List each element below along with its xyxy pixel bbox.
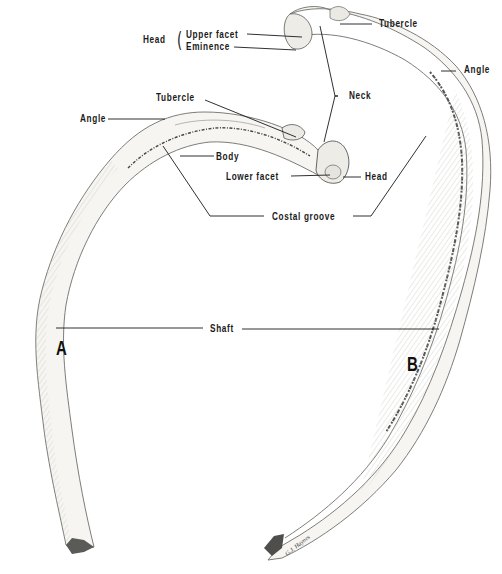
label-tubercle-a: Tubercle <box>156 92 195 103</box>
label-lower-facet: Lower facet <box>226 171 279 182</box>
brace-head: ( <box>177 29 182 51</box>
letter-b: B <box>407 354 418 374</box>
rib-diagram: Head ( Upper facet Eminence Tubercle Ang… <box>0 0 502 574</box>
label-upper-facet: Upper facet <box>186 29 238 40</box>
label-costal-groove: Costal groove <box>272 211 335 222</box>
label-body: Body <box>216 151 239 162</box>
label-eminence: Eminence <box>186 41 230 52</box>
rib-illustration <box>0 0 502 574</box>
label-angle-a: Angle <box>80 113 106 124</box>
letter-a: A <box>56 338 67 358</box>
label-angle-b: Angle <box>464 64 490 75</box>
label-shaft: Shaft <box>210 323 234 334</box>
label-neck: Neck <box>349 90 371 101</box>
label-tubercle-b: Tubercle <box>379 18 418 29</box>
rib-a-drawing <box>36 112 349 554</box>
label-head-b: Head <box>143 34 166 45</box>
rib-b-drawing <box>264 7 491 560</box>
label-head-a: Head <box>365 171 388 182</box>
